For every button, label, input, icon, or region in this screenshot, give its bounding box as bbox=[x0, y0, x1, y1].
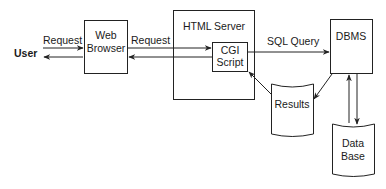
browser-request-label: Request bbox=[131, 34, 170, 46]
database-label-line1: Data bbox=[342, 137, 364, 149]
user-label: User bbox=[14, 47, 37, 59]
cgi-script-label-line2: Script bbox=[217, 56, 244, 68]
user-request-label: Request bbox=[43, 34, 82, 46]
cgi-script-node: CGI Script bbox=[213, 43, 248, 72]
web-browser-label-line1: Web bbox=[95, 29, 117, 41]
html-server-label: HTML Server bbox=[183, 20, 246, 32]
cgi-script-label-line1: CGI bbox=[221, 44, 240, 56]
results-label: Results bbox=[274, 98, 309, 110]
results-to-cgi-arrow bbox=[249, 72, 272, 95]
results-store: Results bbox=[272, 84, 314, 137]
dbms-label: DBMS bbox=[336, 30, 366, 42]
database-store: Data Base bbox=[333, 124, 375, 177]
sql-query-label: SQL Query bbox=[267, 35, 320, 47]
architecture-diagram: User Request Web Browser Request HTML Se… bbox=[0, 0, 386, 189]
web-browser-label-line2: Browser bbox=[87, 42, 126, 54]
web-browser-node: Web Browser bbox=[85, 21, 128, 74]
database-label-line2: Base bbox=[341, 150, 365, 162]
dbms-node: DBMS bbox=[331, 20, 373, 74]
dbms-to-results-arrow bbox=[314, 74, 332, 99]
